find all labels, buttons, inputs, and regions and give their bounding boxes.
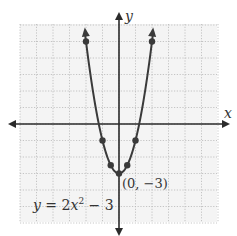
equation-rest: − 3 xyxy=(84,197,114,213)
x-axis-right-arrow-icon xyxy=(222,120,230,128)
equation-eq: = 2 xyxy=(41,197,71,213)
data-point xyxy=(99,137,105,143)
data-point xyxy=(108,162,114,168)
x-axis-label: x xyxy=(224,105,232,121)
equation-x: x xyxy=(70,197,78,213)
vertex-label: (0, −3) xyxy=(122,176,168,191)
x-axis-left-arrow-icon xyxy=(8,120,16,128)
coordinate-plane: x y (0, −3) y = 2x2 − 3 xyxy=(0,0,237,236)
data-point xyxy=(124,162,130,168)
data-point xyxy=(83,38,89,44)
equation-label: y = 2x2 − 3 xyxy=(32,196,114,213)
y-axis-bottom-arrow-icon xyxy=(115,228,123,236)
y-axis-top-arrow-icon xyxy=(115,12,123,20)
data-point xyxy=(132,137,138,143)
y-axis-label: y xyxy=(124,8,134,24)
data-point xyxy=(149,38,155,44)
